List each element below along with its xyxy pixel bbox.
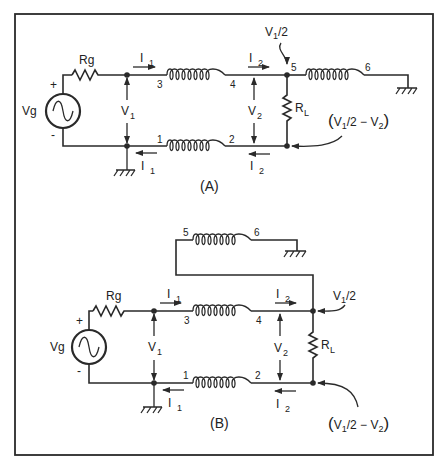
minus-sign: - xyxy=(51,128,55,142)
node-top-label: V1/2 xyxy=(333,289,356,305)
terminal-5: 5 xyxy=(291,62,297,73)
rg-label: Rg xyxy=(106,289,121,303)
node-top-label: V1/2 xyxy=(265,25,288,41)
ac-source-icon xyxy=(46,94,80,128)
terminal-4: 4 xyxy=(230,79,236,90)
svg-text:2: 2 xyxy=(257,111,262,121)
ground-icon xyxy=(396,88,417,94)
panel-a: Vg + - Rg V 1 I 1 I 1 3 4 1 2 xyxy=(22,25,417,194)
i2-top-label: I xyxy=(276,287,279,301)
winding-3-4-icon xyxy=(167,69,225,80)
terminal-3: 3 xyxy=(184,315,190,326)
resistor-rl-icon xyxy=(283,75,291,146)
v1-label: V xyxy=(148,340,156,354)
circuit-figure: Vg + - Rg V 1 I 1 I 1 3 4 1 2 xyxy=(0,0,447,471)
svg-text:L: L xyxy=(304,108,309,118)
svg-text:L: L xyxy=(330,345,335,355)
resistor-rl-icon xyxy=(309,311,317,383)
resistor-rg-icon xyxy=(72,70,167,80)
panel-b: 5 6 Vg + - Rg V 1 I 1 I 1 3 4 xyxy=(50,227,389,434)
source-label: Vg xyxy=(22,104,37,118)
terminal-3: 3 xyxy=(157,79,163,90)
source-label: Vg xyxy=(50,340,65,354)
terminal-1: 1 xyxy=(157,134,163,145)
panel-a-caption: (A) xyxy=(200,178,219,194)
i1-top-label: I xyxy=(140,51,143,65)
plus-sign: + xyxy=(50,78,57,92)
rg-label: Rg xyxy=(79,53,94,67)
ac-source-icon xyxy=(72,330,106,364)
i1-top-label: I xyxy=(167,287,170,301)
i2-top-label: I xyxy=(249,51,252,65)
v1-label: V xyxy=(121,104,129,118)
svg-text:1: 1 xyxy=(150,166,155,176)
i1-bottom-label: I xyxy=(141,159,144,173)
svg-text:2: 2 xyxy=(259,166,264,176)
terminal-4: 4 xyxy=(256,315,262,326)
minus-sign: - xyxy=(77,364,81,378)
svg-text:1: 1 xyxy=(177,403,182,413)
terminal-1: 1 xyxy=(183,370,189,381)
plus-sign: + xyxy=(76,314,83,328)
winding-5-6-icon xyxy=(306,69,364,80)
ground-icon xyxy=(141,383,162,413)
svg-text:1: 1 xyxy=(157,347,162,357)
rl-label: R xyxy=(295,101,304,115)
svg-text:2: 2 xyxy=(283,348,288,358)
svg-text:2: 2 xyxy=(285,294,290,304)
terminal-2: 2 xyxy=(229,134,235,145)
node-bottom-label: (V1/2 − V2) xyxy=(328,414,389,434)
resistor-rg-icon xyxy=(93,306,193,316)
ground-icon xyxy=(114,146,135,176)
rl-label: R xyxy=(321,338,330,352)
i2-bottom-label: I xyxy=(250,159,253,173)
svg-text:1: 1 xyxy=(176,294,181,304)
i1-bottom-label: I xyxy=(168,396,171,410)
winding-3-4-icon xyxy=(193,305,251,316)
winding-5-6-icon xyxy=(193,234,251,245)
terminal-6: 6 xyxy=(254,227,260,238)
winding-1-2-icon xyxy=(193,377,251,388)
node-bottom-label: (V1/2 − V2) xyxy=(328,111,389,131)
panel-b-caption: (B) xyxy=(210,415,229,431)
svg-text:2: 2 xyxy=(285,404,290,414)
winding-1-2-icon xyxy=(167,140,225,151)
ground-icon xyxy=(284,251,306,257)
i2-bottom-label: I xyxy=(276,397,279,411)
terminal-5: 5 xyxy=(183,227,189,238)
v2-label: V xyxy=(248,104,256,118)
v2-label: V xyxy=(274,341,282,355)
svg-text:2: 2 xyxy=(258,58,263,68)
terminal-2: 2 xyxy=(255,370,261,381)
svg-text:1: 1 xyxy=(130,111,135,121)
svg-text:1: 1 xyxy=(149,58,154,68)
terminal-6: 6 xyxy=(365,62,371,73)
